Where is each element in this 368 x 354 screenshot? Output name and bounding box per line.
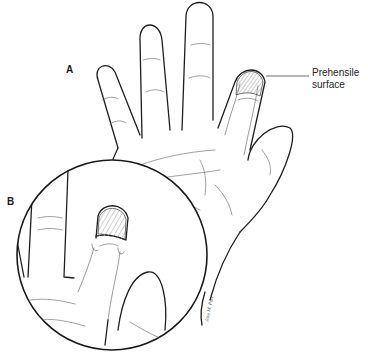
prehensile-label-line2: surface (312, 79, 359, 91)
prehensile-label-line1: Prehensile (312, 67, 359, 79)
hand-illustration: Jose M. Pore (0, 0, 368, 354)
inset-magnification (14, 160, 207, 350)
panel-label-b: B (7, 196, 14, 207)
panel-label-a: A (66, 64, 73, 75)
artist-signature: Jose M. Pore (201, 292, 215, 325)
prehensile-surface-label: Prehensile surface (312, 67, 359, 91)
signature-text: Jose M. Pore (204, 295, 215, 323)
